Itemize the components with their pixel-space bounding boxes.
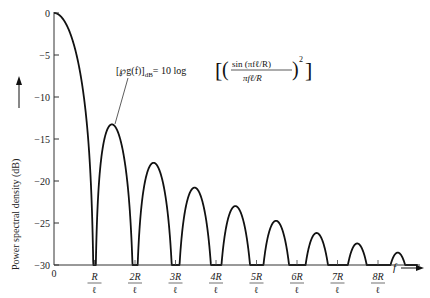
right-bracket: ] — [305, 57, 312, 82]
y-axis-label-group: Power spectral density (dB) — [10, 159, 22, 270]
x-tick-label: R — [90, 271, 97, 282]
formula-exponent: 2 — [299, 55, 303, 64]
psd-curve — [54, 13, 418, 265]
y-tick-label: −25 — [34, 218, 50, 229]
x-tick-label-den: ℓ — [173, 285, 177, 295]
x-tick-label-den: ℓ — [92, 285, 96, 295]
formula-rhs: = 10 log — [153, 65, 186, 76]
x-tick-label: 2R — [129, 271, 140, 282]
x-tick-label-den: ℓ — [295, 285, 299, 295]
left-paren: ( — [222, 58, 229, 81]
y-axis-label: Power spectral density (dB) — [10, 159, 22, 270]
annotation-leader-line — [115, 78, 128, 124]
x-tick-label: 7R — [332, 271, 343, 282]
x-tick-label: 4R — [210, 271, 221, 282]
formula-numerator: sin (πfℓ/R) — [232, 59, 271, 69]
x-tick-label-den: ℓ — [254, 285, 258, 295]
x-tick-label: 6R — [291, 271, 302, 282]
psd-chart: 0−5−10−15−20−25−30 0Rℓ2Rℓ3Rℓ4Rℓ5Rℓ6Rℓ7Rℓ… — [0, 0, 430, 298]
x-tick-label-den: ℓ — [335, 285, 339, 295]
x-tick-label-den: ℓ — [214, 285, 218, 295]
svg-text:[℘g(f)]dB= 10 log: [℘g(f)]dB= 10 log — [116, 65, 186, 79]
y-tick-label: −5 — [39, 50, 50, 61]
formula-annotation: [℘g(f)]dB= 10 log [ ( sin (πfℓ/R) πfℓ/R … — [115, 55, 312, 124]
formula-denominator: πfℓ/R — [243, 73, 262, 83]
formula-lhs: [℘g(f)] — [116, 65, 145, 77]
x-tick-label: 8R — [372, 271, 383, 282]
y-axis-arrow-icon — [16, 76, 22, 108]
x-tick-label: 5R — [251, 271, 262, 282]
y-tick-label: −20 — [34, 176, 50, 187]
x-tick-label: 0 — [52, 268, 57, 279]
y-ticks: 0−5−10−15−20−25−30 — [34, 8, 59, 271]
x-axis-label: f — [393, 261, 398, 273]
y-tick-label: −30 — [34, 260, 50, 271]
y-tick-label: −10 — [34, 92, 50, 103]
x-tick-label: 3R — [169, 271, 181, 282]
x-tick-label-den: ℓ — [133, 285, 137, 295]
y-tick-label: 0 — [45, 8, 50, 19]
x-tick-label-den: ℓ — [376, 285, 380, 295]
y-tick-label: −15 — [34, 134, 50, 145]
right-paren: ) — [292, 58, 299, 81]
